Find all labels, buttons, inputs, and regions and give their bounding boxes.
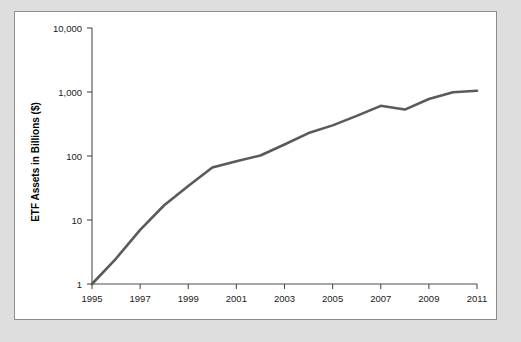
y-axis-tick-label: 10 [71,215,82,226]
y-axis-tick-label: 1,000 [58,87,82,98]
y-axis-tick-label: 10,000 [53,23,82,34]
y-axis-title: ETF Assets in Billions ($) [30,102,41,222]
x-axis-tick-label: 2001 [226,293,247,304]
y-axis-tick-label: 100 [66,151,82,162]
x-axis-tick-label: 2005 [322,293,343,304]
x-axis-tick-label: 1999 [178,293,199,304]
y-axis-tick-group: 10,0001,000100101 [53,23,92,290]
chart-plot: ETF Assets in Billions ($) 10,0001,00010… [15,12,495,318]
chart-panel: ETF Assets in Billions ($) 10,0001,00010… [14,11,497,320]
x-axis-tick-label: 1995 [81,293,102,304]
x-axis-tick-label: 2007 [370,293,391,304]
y-axis-tick-label: 1 [77,279,82,290]
x-axis-tick-label: 1997 [130,293,151,304]
x-axis-tick-label: 2009 [418,293,439,304]
axis-lines [92,28,477,284]
x-axis-tick-group: 199519971999200120032005200720092011 [81,284,487,304]
x-axis-tick-label: 2003 [274,293,295,304]
data-series-line [92,91,477,284]
x-axis-tick-label: 2011 [467,293,487,304]
y-axis-title-group: ETF Assets in Billions ($) [30,102,41,222]
figure-root: ETF Assets in Billions ($) 10,0001,00010… [0,0,521,342]
